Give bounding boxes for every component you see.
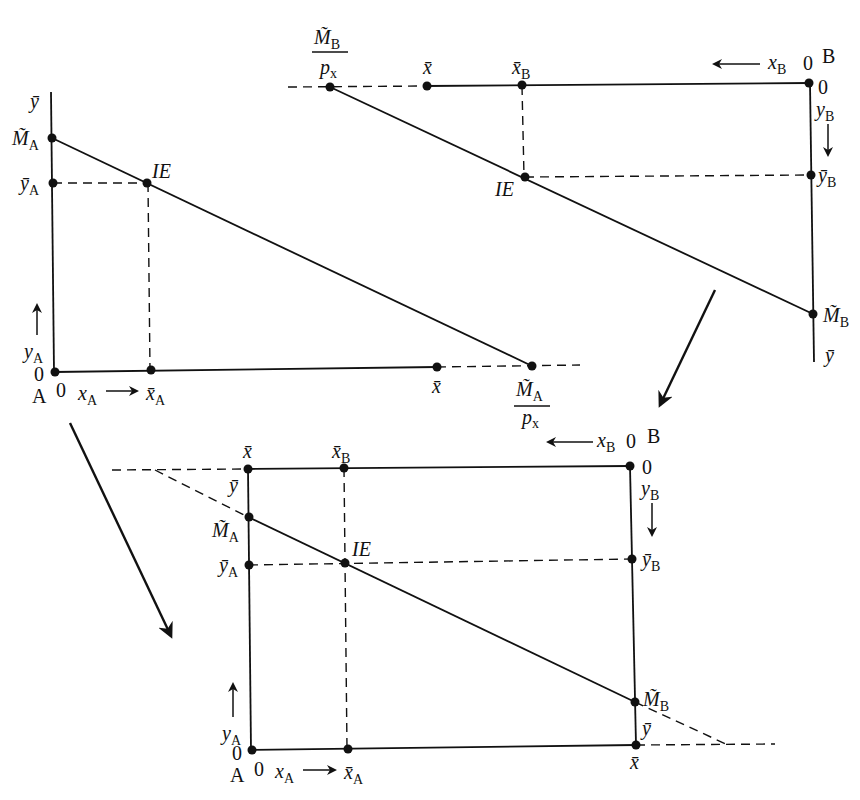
panel-a-budget-intercept-dot xyxy=(528,362,537,371)
panel-b-mb-dot xyxy=(809,310,818,319)
box-xb-label: xB xyxy=(596,429,615,455)
panel-a-ya-bar-label: ȳA xyxy=(18,172,40,198)
panel-b-origin-label: B xyxy=(822,45,835,67)
box-xbar-label: x̄ xyxy=(242,440,252,462)
box-left-edge xyxy=(248,469,251,750)
box-ybar-bottom-dot xyxy=(632,741,641,750)
panel-a-fraction-den: px xyxy=(520,406,539,431)
box-xa-label: xA xyxy=(274,760,295,786)
panel-b-ie-label: IE xyxy=(494,178,514,200)
panel-b-x-axis-extension xyxy=(288,86,427,87)
box-xbar-dot xyxy=(244,465,253,474)
panel-b-yb-label: yB xyxy=(814,98,834,124)
panel-a-ma-dot xyxy=(48,134,57,143)
panel-b-x-zero: 0 xyxy=(803,52,813,74)
box-ie-dot xyxy=(341,559,350,568)
panel-b-origin-dot xyxy=(805,79,814,88)
panel-a-x-zero: 0 xyxy=(56,379,66,401)
box-ya-dot xyxy=(245,561,254,570)
box-a-x-zero: 0 xyxy=(254,758,264,780)
panel-a: ȳ M̃A ȳA IE yA 0 A 0 xA x̄A x̄ M̃A px xyxy=(11,90,580,431)
panel-b-fraction-num: M̃B xyxy=(313,26,340,52)
panel-a-ma-label: M̃A xyxy=(11,127,40,153)
box-xa-dot xyxy=(344,745,353,754)
arrow-b-to-box-icon xyxy=(660,290,715,405)
box-vertical-guide xyxy=(344,468,347,749)
box-budget-line xyxy=(248,517,635,702)
panel-b-y-zero: 0 xyxy=(818,76,828,98)
panel-b-budget-intercept-dot xyxy=(326,83,335,92)
box-top-extension xyxy=(112,469,248,470)
panel-a-budget-line xyxy=(52,138,532,366)
panel-b-xb-guide xyxy=(522,86,524,176)
panel-b-ybar-label: ȳ xyxy=(823,344,835,367)
box-ybar-bottom-label: ȳ xyxy=(640,717,652,740)
panel-a-ybar-label: ȳ xyxy=(28,90,40,113)
box-horizontal-guide xyxy=(249,559,632,565)
panel-a-xbar-dot xyxy=(433,363,442,372)
box-origin-b-label: B xyxy=(647,425,660,447)
box-b-x-zero: 0 xyxy=(626,430,636,452)
panel-b-xb-label: xB xyxy=(767,51,786,77)
arrow-a-to-box-icon xyxy=(70,423,171,636)
panel-a-ie-label: IE xyxy=(151,160,171,182)
panel-a-fraction-num: M̃A xyxy=(515,378,544,404)
panel-a-y-zero: 0 xyxy=(34,363,44,385)
panel-b-xbar-label: x̄ xyxy=(422,56,432,78)
box-top-edge xyxy=(248,466,630,469)
box-xbar-bottom-label: x̄ xyxy=(629,751,639,773)
box-ya-bar-label: ȳA xyxy=(217,554,239,580)
box-mb-dot xyxy=(631,698,640,707)
box-origin-b-dot xyxy=(626,462,635,471)
box-b-y-zero: 0 xyxy=(642,456,652,478)
box-a-y-zero: 0 xyxy=(232,742,242,764)
panel-a-origin-dot xyxy=(51,368,60,377)
panel-a-xa-guide xyxy=(148,183,150,370)
panel-a-x-axis-extension xyxy=(437,365,580,367)
panel-b-mb-label: M̃B xyxy=(822,304,849,330)
edgeworth-box-diagram: ȳ M̃A ȳA IE yA 0 A 0 xA x̄A x̄ M̃A px xyxy=(0,0,860,800)
box-bottom-extension xyxy=(636,744,775,745)
box-origin-a-dot xyxy=(248,746,257,755)
box-mb-label: M̃B xyxy=(642,688,669,714)
panel-b-y-axis xyxy=(810,83,814,362)
panel-b: M̃B px x̄ x̄B xB 0 B 0 yB ȳB IE M̃B ȳ xyxy=(288,26,849,367)
panel-b-xb-bar-label: x̄B xyxy=(511,56,530,82)
box-yb-bar-label: ȳB xyxy=(640,548,660,574)
panel-b-x-axis xyxy=(427,83,810,86)
box-xb-bar-label: x̄B xyxy=(331,440,350,466)
box-origin-a-label: A xyxy=(230,764,245,786)
box-ma-label: M̃A xyxy=(211,519,240,545)
panel-a-xa-label: xA xyxy=(77,382,98,408)
panel-b-yb-dot xyxy=(807,171,816,180)
panel-a-xa-bar-label: x̄A xyxy=(145,382,166,408)
panel-b-yb-guide xyxy=(525,175,811,177)
panel-a-ya-dot xyxy=(49,179,58,188)
panel-a-ie-dot xyxy=(143,179,152,188)
panel-b-budget-line xyxy=(330,87,813,314)
panel-a-x-axis xyxy=(54,367,437,372)
box-ie-label: IE xyxy=(351,538,371,560)
box-ybar-label: ȳ xyxy=(227,474,239,497)
panel-b-yb-bar-label: ȳB xyxy=(816,164,836,190)
box-ma-dot xyxy=(245,513,254,522)
panel-b-ie-dot xyxy=(521,173,530,182)
box-yb-label: yB xyxy=(639,477,659,503)
panel-a-xbar-label: x̄ xyxy=(431,375,441,397)
panel-a-xa-dot xyxy=(147,366,156,375)
panel-b-fraction-den: px xyxy=(318,56,337,81)
panel-a-origin-label: A xyxy=(32,385,47,407)
box-bottom-edge xyxy=(251,745,636,750)
box-yb-dot xyxy=(628,555,637,564)
panel-b-xbar-dot xyxy=(423,82,432,91)
panel-box: x̄ x̄B xB 0 B 0 yB ȳB ȳ M̃A ȳA IE M̃B ȳ … xyxy=(112,425,775,787)
box-xa-bar-label: x̄A xyxy=(343,761,364,787)
